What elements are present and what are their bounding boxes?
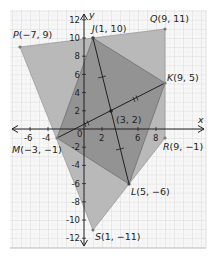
svg-text:2: 2 — [75, 106, 80, 116]
point-j — [91, 36, 95, 40]
y-axis-label: y — [88, 9, 95, 20]
label-s: S(1, −11) — [95, 231, 141, 242]
label-center: (3, 2) — [116, 114, 142, 125]
point-r — [163, 136, 166, 139]
point-q — [163, 27, 166, 30]
svg-text:6: 6 — [75, 70, 80, 80]
svg-text:8: 8 — [153, 133, 158, 143]
svg-text:-6: -6 — [24, 133, 32, 143]
label-k: K(9, 5) — [167, 72, 199, 83]
svg-text:12: 12 — [69, 15, 80, 25]
svg-text:4: 4 — [75, 88, 80, 98]
point-m — [55, 136, 58, 139]
label-r: R(9, −1) — [163, 141, 203, 152]
label-p: P(−7, 9) — [13, 29, 52, 40]
svg-text:-8: -8 — [72, 197, 80, 207]
svg-text:-10: -10 — [66, 215, 80, 225]
svg-text:-2: -2 — [72, 142, 80, 152]
svg-text:-12: -12 — [66, 233, 80, 243]
point-center — [109, 109, 113, 113]
svg-text:-4: -4 — [72, 160, 80, 170]
coordinate-diagram: -6 -4 0 2 6 8 12 10 8 6 4 2 -2 -4 -6 -8 … — [0, 0, 212, 259]
label-j: J(1, 10) — [90, 23, 126, 34]
label-m: M(−3, −1) — [12, 144, 62, 155]
svg-text:-4: -4 — [42, 133, 50, 143]
svg-text:6: 6 — [135, 133, 140, 143]
svg-text:8: 8 — [75, 51, 80, 61]
x-axis-label: x — [197, 114, 204, 125]
svg-text:0: 0 — [77, 129, 82, 139]
label-q: Q(9, 11) — [150, 13, 189, 24]
svg-text:-6: -6 — [72, 179, 80, 189]
point-p — [18, 45, 21, 48]
svg-text:10: 10 — [69, 33, 80, 43]
svg-text:2: 2 — [99, 133, 104, 143]
label-l: L(5, −6) — [131, 186, 170, 197]
